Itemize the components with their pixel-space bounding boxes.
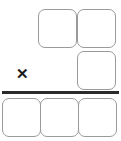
box-multiplier-1[interactable] [77, 51, 116, 90]
multiplication-operator-icon: ✕ [15, 65, 30, 81]
horizontal-rule [2, 91, 119, 94]
box-multiplicand-1[interactable] [38, 9, 77, 48]
box-multiplicand-2[interactable] [77, 9, 116, 48]
multiplication-worksheet: ✕ [0, 0, 121, 141]
box-product-1[interactable] [2, 98, 41, 137]
box-product-2[interactable] [40, 98, 79, 137]
box-product-3[interactable] [78, 98, 117, 137]
